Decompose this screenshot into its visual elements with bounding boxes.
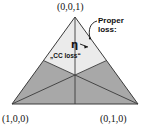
proper-loss-callout-label: Proper loss: bbox=[98, 16, 124, 34]
vertex-label-top: (0,0,1) bbox=[57, 2, 84, 12]
cc-loss-region-label: „CC loss“ bbox=[50, 53, 81, 60]
vertex-label-bottom-left: (1,0,0) bbox=[2, 114, 29, 124]
simplex-diagram bbox=[0, 0, 150, 129]
vertex-label-bottom-right: (0,1,0) bbox=[100, 114, 127, 124]
proper-loss-leader-line bbox=[89, 21, 97, 38]
eta-point-label: η bbox=[71, 40, 78, 50]
proper-loss-leader-dot bbox=[89, 37, 91, 39]
